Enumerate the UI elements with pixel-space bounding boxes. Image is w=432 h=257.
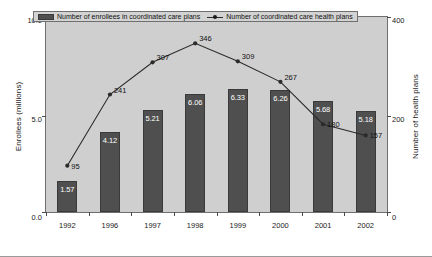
line-point-2000 [278,80,282,84]
x-tickmark-2 [131,212,132,216]
line-marker-icon [207,14,223,20]
tickmark-right-mid [387,116,391,117]
x-tickmark-3 [174,212,175,216]
chart-figure: Enrollees (millions) Number of health pl… [0,0,432,257]
legend-label-bars: Number of enrollees in coordinated care … [57,13,200,20]
line-path [67,43,365,165]
x-tick-label-2000: 2000 [260,221,300,230]
y-tick-left-0: 0.0 [18,213,42,214]
bar-swatch-icon [38,14,54,20]
y-tick-right-label-0: 0 [392,213,416,222]
x-tick-label-2002: 2002 [346,221,386,230]
plot-area: 1.574.125.216.066.336.265.685.18 9524130… [45,16,388,213]
line-value-label-1998: 346 [199,34,212,43]
y-tick-right-label-400: 400 [392,16,416,25]
line-value-label-1992: 95 [71,162,79,171]
line-value-label-1997: 307 [157,53,170,62]
legend-entry-bars: Number of enrollees in coordinated care … [38,13,200,20]
x-tick-label-1997: 1997 [133,221,173,230]
x-tick-label-1998: 1998 [175,221,215,230]
tickmark-right-top [387,17,391,18]
line-value-label-1996: 241 [114,86,127,95]
line-point-2002 [364,133,368,137]
line-value-label-2002: 157 [370,131,383,140]
x-tickmark-7 [344,212,345,216]
x-tickmark-0 [46,212,47,216]
line-value-label-2001: 180 [327,120,340,129]
x-tick-label-1996: 1996 [90,221,130,230]
y-tick-right-400: 400 [392,16,416,17]
line-point-1996 [108,92,112,96]
x-tickmark-8 [387,212,388,216]
line-point-1998 [193,41,197,45]
x-tick-label-2001: 2001 [303,221,343,230]
y-tick-left-label-5: 5.0 [18,115,42,124]
x-tickmark-6 [302,212,303,216]
y-tick-right-200: 200 [392,115,416,116]
y-tick-right-0: 0 [392,213,416,214]
line-series-svg [46,17,387,212]
line-point-1992 [65,164,69,168]
legend-entry-line: Number of coordinated care health plans [207,13,352,20]
line-point-1997 [150,60,154,64]
x-tickmark-1 [89,212,90,216]
y-tick-left-label-0: 0.0 [18,213,42,222]
x-tickmark-4 [217,212,218,216]
line-point-1999 [236,59,240,63]
y-tick-left-5: 5.0 [18,115,42,116]
y-tick-right-label-200: 200 [392,115,416,124]
x-tickmark-5 [259,212,260,216]
line-value-label-1999: 309 [242,52,255,61]
legend-label-line: Number of coordinated care health plans [226,13,352,20]
x-tick-label-1999: 1999 [218,221,258,230]
chart-legend: Number of enrollees in coordinated care … [33,11,358,22]
line-value-label-2000: 267 [284,73,297,82]
plot-inner: 1.574.125.216.066.336.265.685.18 9524130… [46,17,387,212]
x-tick-label-1992: 1992 [47,221,87,230]
line-point-2001 [321,122,325,126]
